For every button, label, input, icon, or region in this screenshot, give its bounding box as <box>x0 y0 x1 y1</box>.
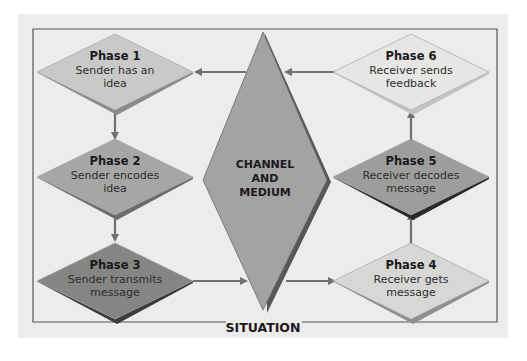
phase-1-node: Phase 1 Sender has an idea <box>37 34 193 115</box>
phase-3-title: Phase 3 <box>89 258 140 272</box>
phase-2-node: Phase 2 Sender encodes idea <box>37 139 193 220</box>
communication-process-diagram: SITUATION CHANNEL AND MEDIUM Phase 1 Sen… <box>0 0 527 361</box>
phase-1-text-line-1: Sender has an <box>75 64 154 77</box>
phase-3-text-line-2: message <box>90 286 140 299</box>
phase-2-text-line-1: Sender encodes <box>71 169 160 182</box>
phase-1-text-line-2: idea <box>103 77 127 90</box>
phase-6-title: Phase 6 <box>385 49 436 63</box>
phase-3-node: Phase 3 Sender transmits message <box>37 243 193 324</box>
phase-6-text-line-2: feedback <box>386 77 437 90</box>
channel-label-line-2: AND <box>252 172 279 185</box>
phase-1-title: Phase 1 <box>89 49 140 63</box>
phase-6-node: Phase 6 Receiver sends feedback <box>333 34 489 115</box>
phase-4-text-line-2: message <box>386 286 436 299</box>
channel-diamond <box>203 32 327 310</box>
situation-label: SITUATION <box>226 320 301 335</box>
phase-4-node: Phase 4 Receiver gets message <box>333 243 489 324</box>
phase-5-node: Phase 5 Receiver decodes message <box>333 139 489 220</box>
channel-label-line-3: MEDIUM <box>239 186 291 199</box>
phase-4-text-line-1: Receiver gets <box>374 273 449 286</box>
phase-4-title: Phase 4 <box>385 258 436 272</box>
phase-2-title: Phase 2 <box>89 154 140 168</box>
phase-3-text-line-1: Sender transmits <box>68 273 163 286</box>
phase-6-text-line-1: Receiver sends <box>369 64 453 77</box>
channel-and-medium-node: CHANNEL AND MEDIUM <box>203 32 331 313</box>
phase-2-text-line-2: idea <box>103 182 127 195</box>
phase-5-text-line-1: Receiver decodes <box>362 169 459 182</box>
phase-5-text-line-2: message <box>386 182 436 195</box>
channel-label-line-1: CHANNEL <box>236 158 295 171</box>
phase-5-title: Phase 5 <box>385 154 436 168</box>
